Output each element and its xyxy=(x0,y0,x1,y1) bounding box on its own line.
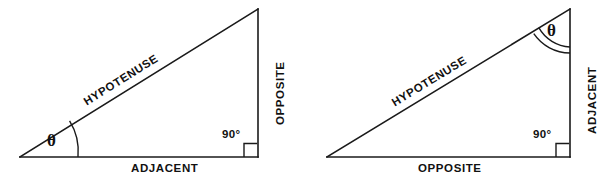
diagram-canvas: θ 90° ADJACENT OPPOSITE HYPOTENUSE θ 90°… xyxy=(0,0,608,186)
right-triangle-theta-label: θ xyxy=(547,22,556,39)
left-triangle-theta-label: θ xyxy=(47,132,56,149)
left-triangle-opposite-label: OPPOSITE xyxy=(275,61,287,125)
right-triangle-right-angle-label: 90° xyxy=(533,129,551,141)
left-triangle-adjacent-label: ADJACENT xyxy=(131,163,198,175)
left-triangle-right-angle-square xyxy=(244,144,257,158)
right-triangle-opposite-label: OPPOSITE xyxy=(418,163,482,175)
right-triangle-right-angle-square xyxy=(556,144,569,158)
left-triangle-right-angle-label: 90° xyxy=(222,129,240,141)
right-triangle-adjacent-label: ADJACENT xyxy=(587,67,599,134)
left-triangle-theta-arc xyxy=(70,121,79,157)
